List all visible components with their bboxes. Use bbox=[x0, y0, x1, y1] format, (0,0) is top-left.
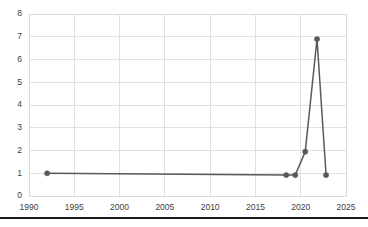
x-tick-label-2000: 2000 bbox=[110, 202, 129, 212]
y-tick-label-4: 4 bbox=[17, 99, 22, 109]
x-tick-label-1995: 1995 bbox=[65, 202, 84, 212]
data-point-0 bbox=[45, 171, 50, 176]
y-tick-label-1: 1 bbox=[17, 168, 22, 178]
y-tick-label-7: 7 bbox=[17, 31, 22, 41]
data-point-5 bbox=[323, 172, 328, 177]
x-tick-label-2005: 2005 bbox=[155, 202, 174, 212]
chart-canvas: 012345678 199019952000200520102015202020… bbox=[0, 0, 368, 227]
x-tick-label-2010: 2010 bbox=[201, 202, 220, 212]
x-tick-label-1990: 1990 bbox=[20, 202, 39, 212]
data-point-4 bbox=[314, 36, 319, 41]
y-tick-label-3: 3 bbox=[17, 122, 22, 132]
x-tick-label-2015: 2015 bbox=[246, 202, 265, 212]
data-point-3 bbox=[303, 149, 308, 154]
y-axis-tick-labels: 012345678 bbox=[17, 8, 22, 200]
y-tick-label-5: 5 bbox=[17, 77, 22, 87]
y-tick-label-6: 6 bbox=[17, 54, 22, 64]
y-tick-label-0: 0 bbox=[17, 190, 22, 200]
data-point-2 bbox=[293, 172, 298, 177]
data-point-1 bbox=[284, 172, 289, 177]
x-tick-label-2025: 2025 bbox=[337, 202, 356, 212]
line-chart: 012345678 199019952000200520102015202020… bbox=[0, 0, 368, 227]
x-axis-tick-labels: 19901995200020052010201520202025 bbox=[20, 202, 356, 212]
series-markers-series-1 bbox=[45, 36, 329, 177]
x-tick-label-2020: 2020 bbox=[291, 202, 310, 212]
y-tick-label-8: 8 bbox=[17, 8, 22, 18]
y-tick-label-2: 2 bbox=[17, 145, 22, 155]
